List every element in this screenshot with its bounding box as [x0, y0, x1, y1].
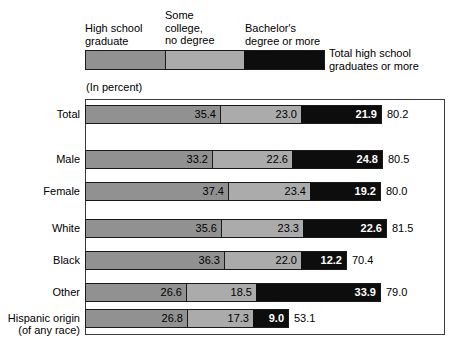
- bar-segment-value: 33.9: [355, 287, 380, 298]
- row-total-value: 70.4: [352, 251, 373, 270]
- bar-segment-some-college-no-degree: 22.0: [225, 252, 301, 269]
- legend-label-some-college-no-degree: Some college, no degree: [165, 9, 215, 47]
- bar-segment-value: 22.6: [361, 223, 386, 234]
- bar-segment-bachelors-degree-or-more: 12.2: [301, 252, 346, 269]
- bar-segment-value: 23.3: [278, 223, 303, 234]
- bar-segment-bachelors-degree-or-more: 33.9: [256, 284, 380, 301]
- row-total-value: 81.5: [392, 219, 413, 238]
- bar-segment-value: 18.5: [231, 287, 256, 298]
- bar-segment-high-school-graduate: 26.6: [86, 284, 187, 301]
- bar-segment-value: 22.6: [267, 154, 292, 165]
- bar-segment-high-school-graduate: 36.3: [86, 252, 225, 269]
- bar-segment-value: 26.8: [162, 313, 187, 324]
- bar-segment-some-college-no-degree: 23.4: [229, 183, 310, 200]
- row-total-value: 79.0: [386, 283, 407, 302]
- bar-segment-value: 35.4: [195, 109, 220, 120]
- bar-segment-value: 23.0: [276, 109, 301, 120]
- row-label-white: White: [0, 222, 80, 234]
- row-label-total: Total: [0, 108, 80, 120]
- bar-segment-value: 19.2: [355, 186, 380, 197]
- bar-segment-value: 23.4: [285, 186, 310, 197]
- bar-segment-bachelors-degree-or-more: 22.6: [303, 220, 386, 237]
- bar-segment-some-college-no-degree: 23.3: [222, 220, 303, 237]
- row-label-other: Other: [0, 286, 80, 298]
- legend-key-bar: [85, 50, 325, 70]
- bar-segment-value: 24.8: [357, 154, 382, 165]
- bar-segment-bachelors-degree-or-more: 19.2: [310, 183, 380, 200]
- legend-labels: High school graduate Some college, no de…: [85, 4, 445, 48]
- bar-segment-bachelors-degree-or-more: 21.9: [301, 106, 381, 123]
- table-row: 36.322.012.2: [85, 251, 347, 270]
- bar-segment-value: 35.6: [196, 223, 221, 234]
- row-total-value: 80.2: [387, 105, 408, 124]
- legend-label-high-school-graduate: High school graduate: [85, 22, 142, 47]
- bar-segment-value: 26.6: [161, 287, 186, 298]
- table-row: 35.423.021.9: [85, 105, 382, 124]
- table-row: 37.423.419.2: [85, 182, 381, 201]
- row-label-female: Female: [0, 185, 80, 197]
- bar-segment-high-school-graduate: 33.2: [86, 151, 213, 168]
- bar-segment-some-college-no-degree: 22.6: [213, 151, 292, 168]
- row-total-value: 80.0: [386, 182, 407, 201]
- bar-segment-high-school-graduate: 37.4: [86, 183, 229, 200]
- chart-page: High school graduate Some college, no de…: [0, 0, 452, 344]
- legend-label-bachelors-degree-or-more: Bachelor's degree or more: [245, 22, 320, 47]
- bar-segment-value: 33.2: [187, 154, 212, 165]
- legend-swatch-some-college-no-degree: [166, 51, 244, 69]
- bar-segment-some-college-no-degree: 23.0: [221, 106, 301, 123]
- bar-segment-high-school-graduate: 26.8: [86, 310, 188, 327]
- bar-segment-high-school-graduate: 35.4: [86, 106, 221, 123]
- bar-segment-some-college-no-degree: 17.3: [188, 310, 253, 327]
- legend-swatch-bachelors-degree-or-more: [244, 51, 324, 69]
- bar-segment-some-college-no-degree: 18.5: [187, 284, 256, 301]
- bar-segment-value: 17.3: [228, 313, 253, 324]
- table-row: 35.623.322.6: [85, 219, 387, 238]
- table-row: 26.817.39.0: [85, 309, 289, 328]
- row-label-male: Male: [0, 153, 80, 165]
- bar-segment-value: 37.4: [203, 186, 228, 197]
- bar-segment-high-school-graduate: 35.6: [86, 220, 222, 237]
- bar-segment-bachelors-degree-or-more: 24.8: [292, 151, 382, 168]
- row-total-value: 53.1: [294, 309, 315, 328]
- row-label-black: Black: [0, 254, 80, 266]
- bar-segment-value: 22.0: [276, 255, 301, 266]
- bar-segment-value: 36.3: [199, 255, 224, 266]
- table-row: 26.618.533.9: [85, 283, 381, 302]
- bar-segment-value: 21.9: [356, 109, 381, 120]
- row-total-value: 80.5: [388, 150, 409, 169]
- table-row: 33.222.624.8: [85, 150, 383, 169]
- bar-segment-value: 9.0: [269, 313, 288, 324]
- bar-segment-value: 12.2: [321, 255, 346, 266]
- legend-swatch-high-school-graduate: [86, 51, 166, 69]
- legend-total-caption: Total high school graduates or more: [329, 47, 419, 72]
- row-label-hispanic-origin: Hispanic origin (of any race): [0, 312, 80, 336]
- bar-segment-bachelors-degree-or-more: 9.0: [253, 310, 288, 327]
- units-note: (In percent): [86, 81, 142, 93]
